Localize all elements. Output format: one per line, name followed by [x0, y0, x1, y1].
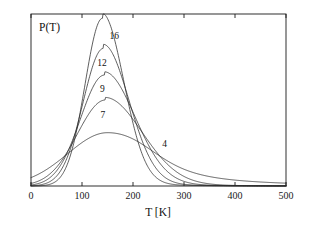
- curve-12: [31, 44, 286, 186]
- curve-label-9: 9: [100, 84, 105, 94]
- plot-frame: [31, 14, 286, 186]
- curve-group: [31, 14, 286, 186]
- curve-9: [31, 72, 286, 186]
- curve-label-7: 7: [101, 110, 106, 120]
- curve-16: [31, 14, 286, 186]
- x-tick-label-400: 400: [228, 190, 243, 201]
- x-tick-label-0: 0: [29, 190, 34, 201]
- x-axis-title: T [K]: [145, 206, 171, 218]
- x-tick-label-300: 300: [177, 190, 192, 201]
- plot-svg: 0100200300400500 1612974 P(T) T [K]: [0, 0, 315, 228]
- x-tick-label-200: 200: [126, 190, 141, 201]
- x-tick-label-500: 500: [279, 190, 294, 201]
- curve-labels: 1612974: [97, 31, 167, 149]
- curve-label-16: 16: [109, 31, 119, 41]
- y-axis-title: P(T): [39, 21, 60, 34]
- curve-label-12: 12: [97, 58, 107, 68]
- x-tick-label-100: 100: [75, 190, 90, 201]
- figure-canvas: 0100200300400500 1612974 P(T) T [K]: [0, 0, 315, 228]
- x-axis-ticks-top: [31, 14, 286, 18]
- curve-7: [31, 97, 286, 185]
- x-axis-tick-labels: 0100200300400500: [29, 190, 294, 201]
- curve-label-4: 4: [162, 139, 167, 149]
